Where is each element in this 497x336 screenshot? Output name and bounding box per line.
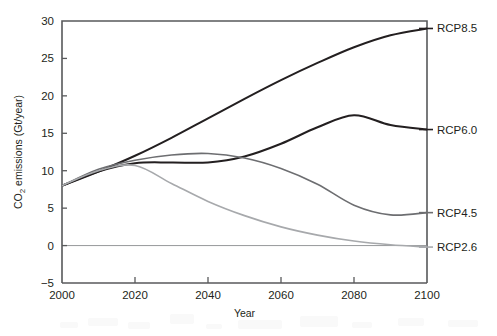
x-tick-label: 2000 [49, 289, 75, 301]
series-line-rcp8-5 [62, 28, 427, 185]
x-tick-label: 2100 [414, 289, 440, 301]
y-tick-label: 10 [41, 165, 54, 177]
x-tick-label: 2080 [341, 289, 367, 301]
y-tick-label: −5 [41, 277, 54, 289]
series-label-rcp8-5: RCP8.5 [437, 22, 477, 34]
y-tick-label: 30 [41, 15, 54, 27]
y-tick-label: 0 [48, 240, 54, 252]
y-tick-label: 25 [41, 52, 54, 64]
series-line-rcp2-6 [62, 165, 427, 247]
series-line-rcp6-0 [62, 115, 427, 185]
x-tick-label: 2040 [195, 289, 221, 301]
y-tick-label: 15 [41, 127, 54, 139]
y-tick-label: 20 [41, 90, 54, 102]
series-group [62, 28, 427, 247]
co2-emissions-line-chart: −5051015202530200020202040206020802100Ye… [0, 0, 497, 336]
y-axis-title: CO2 emissions (Gt/year) [12, 95, 27, 209]
x-tick-label: 2020 [122, 289, 148, 301]
series-label-rcp4-5: RCP4.5 [437, 207, 477, 219]
x-axis: 200020202040206020802100 [49, 277, 440, 301]
series-label-rcp2-6: RCP2.6 [437, 241, 477, 253]
y-tick-label: 5 [48, 202, 54, 214]
x-tick-label: 2060 [268, 289, 294, 301]
series-label-rcp6-0: RCP6.0 [437, 124, 477, 136]
series-line-rcp4-5 [62, 153, 427, 215]
x-axis-title: Year [234, 307, 256, 319]
y-axis: −5051015202530 [41, 15, 67, 289]
chart-figure: −5051015202530200020202040206020802100Ye… [0, 0, 497, 336]
